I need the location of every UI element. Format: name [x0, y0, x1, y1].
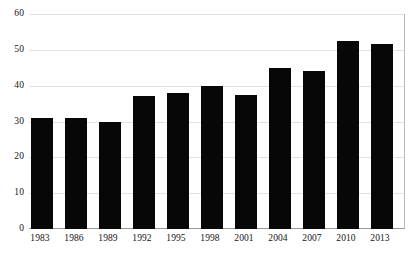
bar-2013 — [371, 44, 393, 229]
bar-2001 — [235, 95, 257, 229]
bar-2007 — [303, 71, 325, 229]
bar-1983 — [31, 118, 53, 229]
plot-area — [29, 14, 405, 229]
y-axis-tick-label-50: 50 — [0, 45, 24, 55]
gridline-60 — [29, 14, 404, 15]
bar-1986 — [65, 118, 87, 229]
y-axis-tick-label-30: 30 — [0, 117, 24, 127]
bar-2004 — [269, 68, 291, 229]
bar-1989 — [99, 122, 121, 230]
y-axis-tick-label-10: 10 — [0, 188, 24, 198]
x-axis-tick-label-2013: 2013 — [357, 233, 403, 243]
bar-1998 — [201, 86, 223, 229]
y-axis-tick-label-60: 60 — [0, 9, 24, 19]
bar-1992 — [133, 96, 155, 229]
y-axis-tick-label-40: 40 — [0, 81, 24, 91]
y-axis-tick-label-20: 20 — [0, 152, 24, 162]
bar-1995 — [167, 93, 189, 229]
bar-2010 — [337, 41, 359, 229]
bar-chart: 60 50 40 30 20 10 0 1983 1986 1989 1992 … — [0, 0, 418, 259]
